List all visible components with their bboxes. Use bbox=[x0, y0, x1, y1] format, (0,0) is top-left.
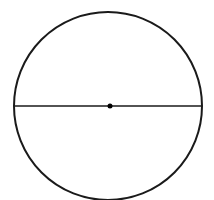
circle-diagram bbox=[0, 0, 214, 200]
center-point bbox=[108, 104, 113, 109]
